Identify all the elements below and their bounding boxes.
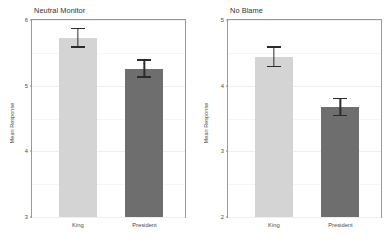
error-bar-cap-lower	[267, 66, 281, 67]
error-bar-king	[267, 46, 281, 67]
error-bar-cap-lower	[71, 46, 85, 47]
y-axis-tick-mark	[226, 151, 229, 152]
x-axis-tick-label: President	[328, 222, 353, 228]
error-bar-president	[333, 98, 347, 116]
y-axis-tick-mark	[30, 20, 33, 21]
gridline	[228, 86, 381, 87]
x-axis-tick-label: President	[132, 222, 157, 228]
gridline	[32, 217, 185, 218]
gridline	[32, 20, 185, 21]
panel-no-blame: No Blame Mean Response 5432KingPresident	[196, 0, 391, 245]
y-axis-tick-mark	[30, 151, 33, 152]
bar-president	[321, 107, 359, 217]
error-bar-stem	[273, 46, 274, 67]
gridline-minor	[32, 53, 185, 54]
x-axis-tick-label: King	[268, 222, 280, 228]
error-bar-cap-lower	[137, 76, 151, 77]
figure: Neutral Monitor Mean Response 6543KingPr…	[0, 0, 391, 245]
error-bar-cap-lower	[333, 115, 347, 116]
y-axis-tick-mark	[226, 20, 229, 21]
panel-title: Neutral Monitor	[34, 6, 85, 15]
y-axis-tick-mark	[30, 217, 33, 218]
error-bar-stem	[340, 98, 341, 116]
x-axis-tick-label: King	[72, 222, 84, 228]
bar-king	[255, 57, 293, 217]
error-bar-cap-upper	[137, 59, 151, 60]
gridline	[228, 20, 381, 21]
y-axis-title: Mean Response	[9, 81, 15, 165]
error-bar-cap-upper	[267, 46, 281, 47]
plot-area: 5432KingPresident	[227, 19, 382, 218]
gridline-minor	[228, 53, 381, 54]
error-bar-cap-upper	[71, 28, 85, 29]
panel-title: No Blame	[230, 6, 263, 15]
plot-area: 6543KingPresident	[31, 19, 186, 218]
panel-neutral-monitor: Neutral Monitor Mean Response 6543KingPr…	[0, 0, 195, 245]
error-bar-cap-upper	[333, 98, 347, 99]
y-axis-title: Mean Response	[203, 81, 209, 165]
error-bar-president	[137, 59, 151, 77]
y-axis-tick-mark	[226, 85, 229, 86]
bar-king	[59, 38, 97, 217]
bar-president	[125, 69, 163, 217]
error-bar-stem	[77, 28, 78, 48]
gridline	[228, 217, 381, 218]
error-bar-stem	[144, 59, 145, 77]
y-axis-tick-mark	[30, 85, 33, 86]
y-axis-tick-mark	[226, 217, 229, 218]
error-bar-king	[71, 28, 85, 48]
